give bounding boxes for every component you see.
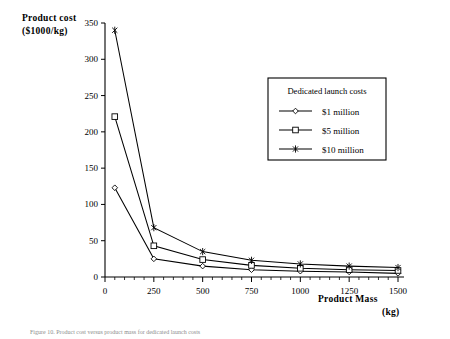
y-axis-title-line1: Product cost	[22, 13, 77, 23]
legend: Dedicated launch costs $1 million$5 mill…	[268, 78, 386, 160]
legend-item-label: $5 million	[322, 126, 360, 136]
x-tick-label: 0	[103, 286, 108, 296]
legend-title: Dedicated launch costs	[287, 86, 367, 96]
x-tick-label: 1000	[291, 286, 310, 296]
y-tick-label: 0	[94, 272, 99, 282]
x-tick-label: 250	[147, 286, 161, 296]
x-tick-label: 1500	[389, 286, 408, 296]
figure-container: Product cost ($1000/kg) 0501001502002503…	[0, 0, 450, 339]
marker-square	[200, 257, 206, 263]
x-axis-title-line1: Product Mass	[318, 294, 378, 304]
marker-diamond	[200, 263, 206, 269]
y-tick-label: 50	[89, 236, 99, 246]
line-chart: Product cost ($1000/kg) 0501001502002503…	[0, 0, 450, 339]
marker-square	[293, 127, 299, 133]
y-tick-label: 300	[85, 54, 99, 64]
y-axis-ticks: 050100150200250300350	[85, 18, 106, 282]
y-tick-label: 350	[85, 18, 99, 28]
x-axis-title-line2: (kg)	[382, 307, 400, 318]
marker-diamond	[112, 185, 118, 191]
y-tick-label: 100	[85, 199, 99, 209]
marker-cross	[112, 27, 117, 34]
legend-item-label: $10 million	[322, 145, 364, 155]
y-axis-title-line2: ($1000/kg)	[22, 26, 68, 37]
series-0	[112, 185, 401, 276]
legend-item-label: $1 million	[322, 107, 360, 117]
x-tick-label: 500	[196, 286, 210, 296]
marker-diamond	[151, 256, 157, 262]
marker-square	[151, 243, 157, 249]
marker-square	[112, 114, 118, 120]
y-tick-label: 150	[85, 163, 99, 173]
figure-caption: Figure 10. Product cost versus product m…	[30, 329, 201, 335]
y-tick-label: 200	[85, 127, 99, 137]
marker-cross	[151, 224, 156, 231]
x-tick-label: 750	[245, 286, 259, 296]
y-tick-label: 250	[85, 91, 99, 101]
